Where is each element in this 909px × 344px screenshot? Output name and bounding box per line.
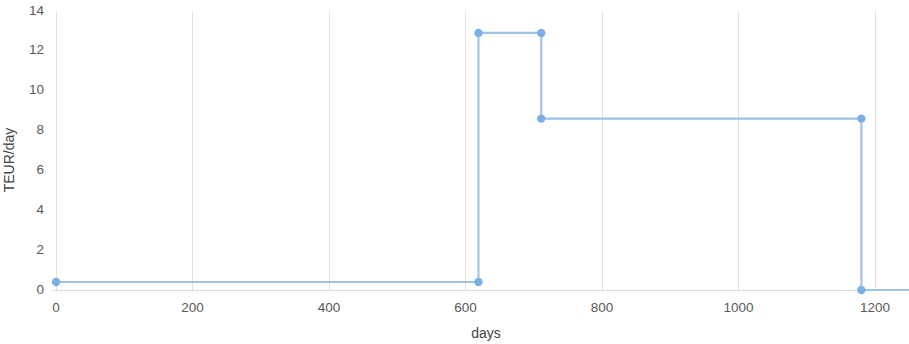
y-tick-labels-group: 02468101214 (29, 3, 45, 297)
x-tick-label-6: 1200 (860, 300, 890, 315)
series-line-0 (56, 33, 909, 290)
data-point-marker (52, 278, 60, 286)
x-tick-label-0: 0 (52, 300, 60, 315)
series-group (52, 29, 909, 294)
data-point-marker (474, 278, 482, 286)
y-tick-label-0: 0 (36, 282, 44, 297)
data-point-marker (857, 114, 865, 122)
y-tick-label-1: 2 (36, 242, 44, 257)
y-tick-label-7: 14 (29, 3, 45, 18)
x-tick-label-3: 600 (454, 300, 477, 315)
data-point-marker (537, 29, 545, 37)
x-tick-label-5: 1000 (723, 300, 753, 315)
x-tick-labels-group: 020040060080010001200 (52, 300, 890, 315)
data-point-marker (474, 29, 482, 37)
y-tick-label-2: 4 (36, 202, 44, 217)
data-point-marker (537, 114, 545, 122)
y-tick-label-5: 10 (29, 82, 44, 97)
chart-container: 02468101214 020040060080010001200 days T… (0, 0, 909, 344)
y-tick-label-6: 12 (29, 42, 44, 57)
data-point-marker (857, 286, 865, 294)
x-axis-title: days (471, 325, 501, 341)
y-tick-label-3: 6 (36, 162, 44, 177)
y-axis-title: TEUR/day (1, 128, 17, 193)
gridlines-group (56, 11, 875, 290)
x-tick-label-1: 200 (181, 300, 204, 315)
y-tick-label-4: 8 (36, 122, 44, 137)
chart-plot: 02468101214 020040060080010001200 days T… (0, 0, 909, 344)
x-tick-label-2: 400 (318, 300, 341, 315)
x-tick-label-4: 800 (591, 300, 614, 315)
